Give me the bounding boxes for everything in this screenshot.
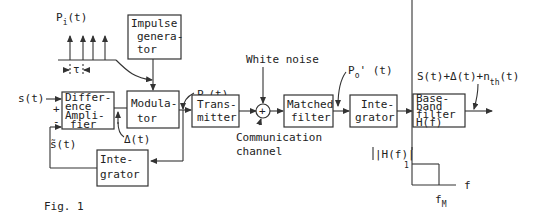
- integrator-rx-label: Inte- grator: [355, 98, 401, 124]
- s-tilde-label: s̃(t): [50, 138, 77, 151]
- transmitter-label: Trans- mitter: [197, 98, 243, 124]
- summer-plus: +: [259, 105, 266, 118]
- block-diagram: Pi(t) τ Impulse genera- tor s(t) + - Dif…: [0, 0, 541, 222]
- h-axis-label: |H(f)|: [375, 148, 415, 161]
- pi-label: Pi(t): [56, 11, 87, 27]
- figure-caption: Fig. 1: [44, 200, 84, 213]
- s-input-label: s(t): [18, 92, 45, 105]
- fm-tick-label: fM: [435, 193, 447, 209]
- output-label: S(t)+Δ(t)+nth(t): [417, 70, 519, 87]
- po-prime-label: Po' (t): [348, 64, 393, 80]
- white-noise-label: White noise: [246, 53, 319, 66]
- minus-sign: -: [53, 115, 60, 128]
- tau-label: τ: [73, 63, 80, 76]
- channel-label: Communication channel: [236, 131, 329, 158]
- delta-label: Δ(t): [124, 133, 151, 146]
- h-tick-1: 1: [404, 161, 409, 170]
- f-axis-label: f: [464, 179, 471, 192]
